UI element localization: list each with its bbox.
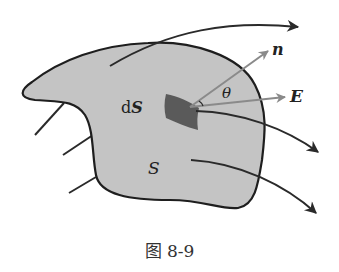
field-label-E: E — [290, 86, 303, 106]
figure-caption: 图 8-9 — [0, 237, 339, 262]
area-element-label: dS — [121, 98, 143, 117]
field-line-left-2 — [63, 135, 93, 155]
angle-label-theta: θ — [222, 84, 231, 102]
area-element-label-S: S — [131, 98, 143, 117]
field-line-left-3 — [69, 177, 96, 193]
surface-label-S: S — [148, 158, 160, 178]
area-element-label-d: d — [121, 98, 131, 117]
field-line-left-1 — [35, 103, 64, 135]
electric-flux-diagram — [0, 0, 339, 272]
normal-label-n: n — [272, 40, 284, 59]
surface-S — [23, 43, 265, 209]
